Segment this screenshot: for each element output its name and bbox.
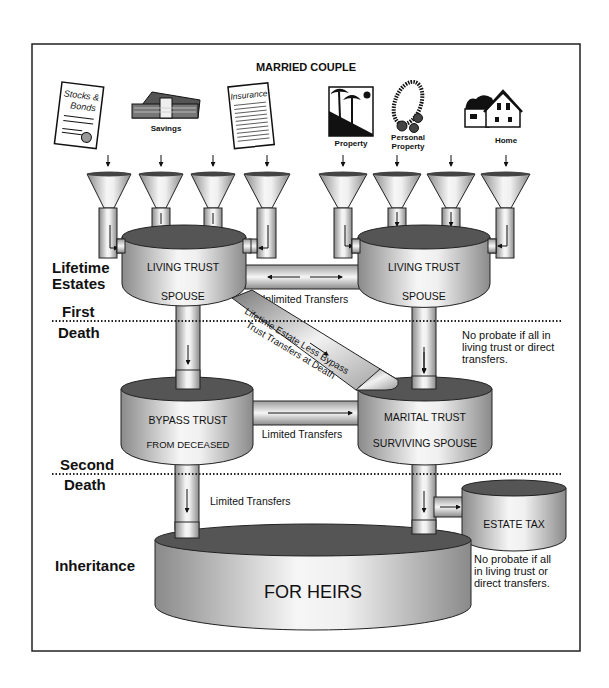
svg-text:transfers.: transfers. <box>462 353 508 365</box>
svg-text:BYPASS TRUST: BYPASS TRUST <box>149 414 229 426</box>
tank-for-heirs: FOR HEIRS <box>155 520 471 630</box>
svg-text:FOR HEIRS: FOR HEIRS <box>264 582 362 602</box>
stage-first-label: First <box>62 303 95 320</box>
svg-text:SPOUSE: SPOUSE <box>161 290 205 302</box>
svg-text:ESTATE TAX: ESTATE TAX <box>483 518 545 530</box>
tank-estate-tax: ESTATE TAX <box>462 480 566 551</box>
svg-text:LIVING TRUST: LIVING TRUST <box>388 261 461 273</box>
svg-text:SPOUSE: SPOUSE <box>402 290 446 302</box>
svg-text:No probate if all in: No probate if all in <box>462 329 551 341</box>
svg-text:living trust or direct: living trust or direct <box>462 341 554 353</box>
stage-first-death-label: Death <box>58 324 100 341</box>
inlet-stub <box>117 239 125 253</box>
svg-text:FROM DECEASED: FROM DECEASED <box>147 439 230 450</box>
svg-text:No probate if all: No probate if all <box>474 553 551 565</box>
property-label: Property <box>335 139 368 148</box>
svg-text:MARITAL TRUST: MARITAL TRUST <box>384 411 467 423</box>
svg-text:in living trust or: in living trust or <box>474 565 548 577</box>
svg-text:SURVIVING SPOUSE: SURVIVING SPOUSE <box>373 437 477 449</box>
tank-bypass-trust: BYPASS TRUST FROM DECEASED <box>121 370 253 465</box>
estate-plan-diagram: MARRIED COUPLE Stocks & Bonds Savings In… <box>0 0 609 688</box>
stage-inheritance-label: Inheritance <box>55 557 135 574</box>
unlimited-transfers-pipe <box>245 265 363 289</box>
inlet-stub <box>243 239 251 253</box>
stage-second-label: Second <box>60 456 114 473</box>
stage-second-death-label: Death <box>64 476 106 493</box>
tank-living-trust-right: LIVING TRUST SPOUSE <box>358 225 490 307</box>
probate-note-lower: No probate if all in living trust or dir… <box>474 553 551 589</box>
inlet-stub <box>488 239 496 253</box>
stage-lifetime-label-1: Lifetime <box>52 259 110 276</box>
svg-text:direct transfers.: direct transfers. <box>474 577 550 589</box>
home-label: Home <box>495 136 518 145</box>
insurance-document-icon: Insurance <box>228 83 274 149</box>
personal-property-label-line2: Property <box>392 142 425 151</box>
inlet-stub <box>352 239 360 253</box>
limited-transfers-label-bottom: Limited Transfers <box>210 495 291 507</box>
property-palm-trees-icon <box>329 87 373 136</box>
limited-transfers-label-mid: Limited Transfers <box>262 428 343 440</box>
stocks-bonds-certificate-icon: Stocks & Bonds <box>54 82 103 149</box>
savings-label: Savings <box>151 124 182 133</box>
diagram-title: MARRIED COUPLE <box>256 61 356 73</box>
tank-living-trust-left: LIVING TRUST SPOUSE <box>122 225 246 306</box>
svg-text:LIVING TRUST: LIVING TRUST <box>147 261 220 273</box>
personal-property-label-line1: Personal <box>391 133 425 142</box>
stage-lifetime-label-2: Estates <box>52 275 105 292</box>
